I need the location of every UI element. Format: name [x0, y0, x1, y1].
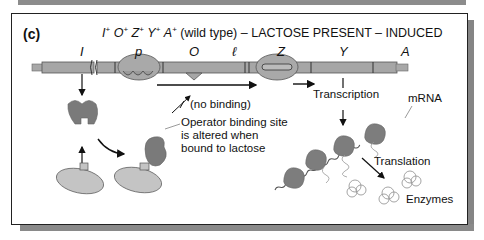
transcription-label: Transcription: [313, 88, 379, 100]
operator-site-note: Operator binding site is altered when bo…: [181, 116, 288, 155]
gene-label-o: O: [189, 44, 199, 59]
no-binding-arrow: [172, 96, 190, 113]
gene-label-i: I: [80, 44, 84, 59]
ribosome-icons: [284, 124, 386, 189]
repressor-protein-icon: [68, 101, 98, 125]
enzymes-label: Enzymes: [406, 193, 453, 205]
gene-label-z: Z: [277, 44, 285, 59]
mrna-label: mRNA: [408, 92, 442, 104]
gene-label-l: ℓ: [232, 44, 236, 59]
gene-label-p: p: [135, 44, 142, 59]
gene-label-y: Y: [339, 44, 348, 59]
repressor-lactose-complex-icon: [112, 137, 166, 197]
no-binding-label: (no binding): [190, 98, 251, 110]
dna-strand: [32, 60, 408, 80]
figure-title: I+ O+ Z+ Y+ A+ (wild type) – LACTOSE PRE…: [102, 25, 442, 40]
translation-label: Translation: [374, 155, 430, 167]
lactose-inducer-icon: [54, 163, 106, 198]
panel-label: (c): [23, 26, 40, 42]
gene-label-a: A: [401, 44, 410, 59]
